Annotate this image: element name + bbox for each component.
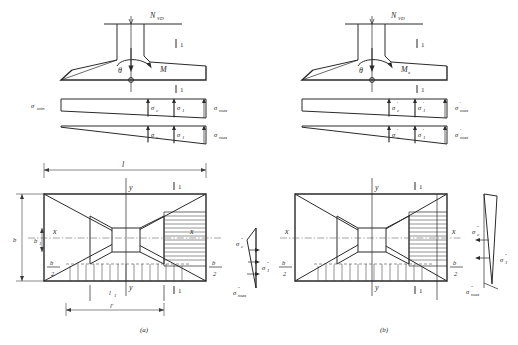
section-marker-b-plan: 1 [419,183,423,191]
sigma-1-prime-sub-b1: 1 [423,108,426,113]
sigma-1-dprime-mark-a: ″ [267,261,269,266]
plan-y-bottom-b: y [374,283,379,292]
sigma-c-dprime-label-b: σ [472,228,476,235]
plan-x-right-b: x [451,227,456,236]
plan-height-label-a: b [13,236,17,243]
plan-width-label-a: l [122,160,125,169]
sigma-1-dprime-sub-a: 1 [267,268,270,273]
plan-y-bottom-a: y [128,283,133,292]
sigma-max-dprime-sub-a: max [238,293,247,298]
panel-a-side-stress: σ c ″ σ 1 ″ σ max ″ [233,228,270,298]
sigma-c-prime-mark-b2: ′ [397,128,398,133]
sigma-1-prime-mark-b2: ′ [423,128,424,133]
plan-bottom-dim-label-a: l' [110,302,114,309]
sigma-max-prime-label-b2: σ [455,131,459,138]
load-sub-b: VD [398,16,405,21]
panel-b-stress-1: σ c ′ σ 1 ′ σ max ′ 1 [302,85,469,118]
sigma-1-dprime-sub-b: 1 [505,260,508,265]
sigma-1-dprime-b: σ 1 ″ [500,253,508,265]
sigma-max-dprime-label-b: σ [466,288,470,295]
sigma-max-prime-mark-b2: ′ [460,128,461,133]
sigma-max-dprime-a: σ max ″ [233,286,247,298]
sigma-min-sub-a1: min [37,106,45,111]
sigma-max-sub-a1: max [219,108,228,113]
sigma-1-dprime-label-a: σ [262,264,266,271]
panel-b-plan: x x y y b 2 b 2 1 1 [279,178,463,300]
plan-y-top-b: y [374,183,379,192]
plan-half-left-den-b: 2 [283,270,287,277]
sigma-c-dprime-sub-b: c [477,232,480,237]
moment-sub-b: x [407,70,411,75]
sigma-max-dprime-label-a: σ [233,289,237,296]
plan-half-right-den-b: 2 [454,270,458,277]
section-marker-b-s1: 1 [421,86,425,94]
sigma-max-label-a2: σ [214,131,218,138]
panel-b: N VD θ M x 1 σ c ′ σ [279,11,508,334]
load-label-b: N [390,11,397,20]
caption-b: (b) [380,326,389,334]
plan-inner-height-sub-a: 1 [39,241,42,246]
section-marker-a-plan2: 1 [178,287,182,295]
panel-a-stress-1: σ min σ c σ 1 σ max 1 [31,85,228,118]
panel-b-stress-2: σ c ′ σ 1 ′ σ max ′ [302,125,469,144]
plan-x-left-b: x [284,227,289,236]
panel-b-elevation: N VD θ M x 1 [302,11,447,92]
angle-label-b: θ [359,66,363,75]
plan-half-right-b: b 2 [450,259,463,277]
caption-a: (a) [140,326,149,334]
engineering-figure: N VD θ M 1 σ min σ c σ 1 [0,0,518,345]
sigma-c-dprime-sub-a: c [241,244,244,249]
sigma-c-dprime-b: σ c ″ [472,225,480,237]
sigma-c-dprime-mark-b: ″ [477,225,479,230]
plan-x-right-a: x [189,227,194,236]
sigma-max-prime-label-b1: σ [455,104,459,111]
panel-a-plan: l [13,160,222,316]
moment-label-a: M [159,65,168,74]
sigma-max-prime-b1: σ max ′ [455,101,469,113]
sigma-c-prime-mark-b1: ′ [397,101,398,106]
section-marker-a-elev: 1 [180,41,184,49]
plan-inner-width-sub-a: 1 [114,293,117,298]
sigma-max-prime-sub-b1: max [460,108,469,113]
sigma-c-dprime-label-a: σ [236,240,240,247]
sigma-max-dprime-mark-b: ″ [471,285,473,290]
sigma-min-label-a1: σ [31,102,35,109]
sigma-1-dprime-mark-b: ″ [505,253,507,258]
angle-label-a: θ [118,66,122,75]
plan-half-right-num-a: b [212,259,216,266]
sigma-max-prime-b2: σ max ′ [455,128,469,140]
sigma-c-dprime-a: σ c ″ [236,237,244,249]
plan-half-left-b: b 2 [279,259,292,277]
sigma-c-dprime-mark-a: ″ [241,237,243,242]
sigma-1-prime-mark-b1: ′ [423,101,424,106]
sigma-1-dprime-label-b: σ [500,256,504,263]
section-marker-a-s1: 1 [180,86,184,94]
sigma-1-dprime-a: σ 1 ″ [262,261,270,273]
section-marker-b-plan2: 1 [419,287,423,295]
panel-a-elevation: N VD θ M 1 [61,11,206,92]
panel-b-side-stress: σ c ″ σ 1 ″ σ max ″ [466,194,508,297]
panel-a-stress-2: σ c σ 1 σ max [61,125,228,144]
plan-half-right-a: b 2 [209,259,222,277]
plan-half-left-num-b: b [282,259,286,266]
section-marker-a-plan: 1 [178,183,182,191]
panel-a: N VD θ M 1 σ min σ c σ 1 [13,11,270,334]
sigma-max-dprime-b: σ max ″ [466,285,480,297]
load-arrowhead-b [369,66,374,73]
sigma-max-prime-mark-b1: ′ [460,101,461,106]
plan-inner-width-label-a: l [109,289,111,296]
sigma-max-sub-a2: max [219,135,228,140]
plan-y-top-a: y [128,183,133,192]
sigma-max-prime-sub-b2: max [460,135,469,140]
load-label-a: N [149,11,156,20]
section-marker-b-elev: 1 [421,41,425,49]
sigma-max-label-a1: σ [214,104,218,111]
plan-x-left-a: x [52,227,57,236]
sigma-1-sub-a2: 1 [182,135,185,140]
plan-half-right-num-b: b [453,259,457,266]
sigma-1-sub-a1: 1 [182,108,185,113]
sigma-1-prime-sub-b2: 1 [423,135,426,140]
sigma-max-dprime-mark-a: ″ [238,286,240,291]
load-arrowhead [128,66,133,73]
load-sub-a: VD [157,16,164,21]
